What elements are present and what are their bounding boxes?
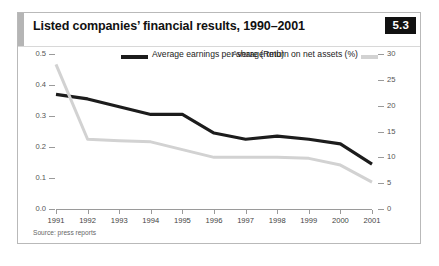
source-note: Source: press reports	[33, 229, 96, 236]
figure-panel: Listed companies’ financial results, 199…	[17, 12, 421, 244]
chart-plot-area	[18, 13, 422, 245]
series-line-return-on-net-assets	[56, 64, 372, 182]
series-line-earnings-per-share	[56, 94, 372, 164]
